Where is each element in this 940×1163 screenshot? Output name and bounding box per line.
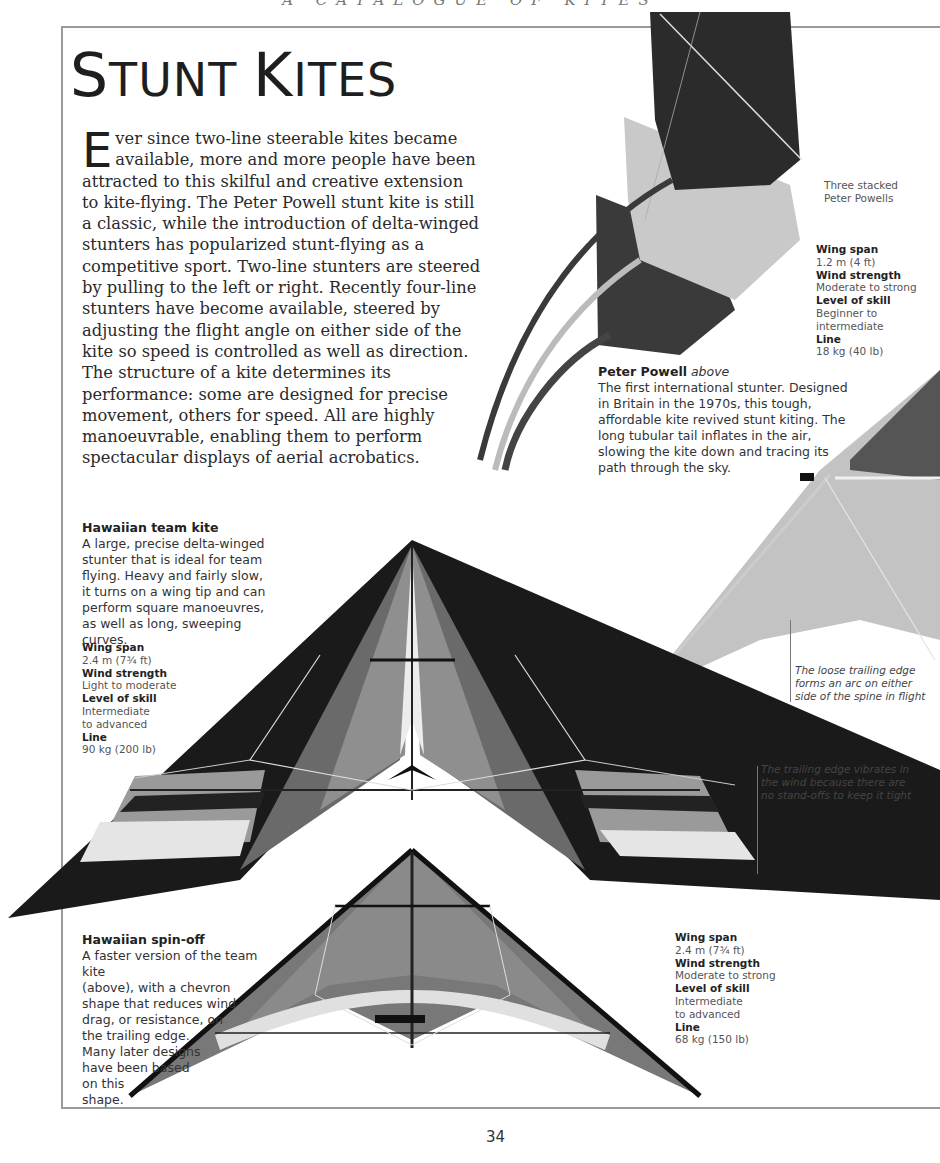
kite-description: A large, precise delta-winged stunter th… [82,536,272,648]
spec-value: to advanced [82,718,177,731]
kite-description-line: A faster version of the team kite [82,948,282,980]
kite-description-line: the trailing edge. [82,1028,282,1044]
callout-leader-line [790,620,791,670]
kite-description-line: (above), with a chevron [82,980,282,996]
page-number: 34 [486,1128,505,1146]
spec-label: Wind strength [816,269,917,282]
kite-description-line: on this [82,1076,282,1092]
spec-value: intermediate [816,320,917,333]
spec-label: Line [675,1021,776,1034]
kite-name: Hawaiian team kite [82,520,218,535]
spec-label: Wind strength [675,957,776,970]
spec-value: 18 kg (40 lb) [816,345,917,358]
peter-powell-caption: Peter Powell above The first internation… [598,364,848,476]
kite-description-line: shape. [82,1092,282,1108]
kite-description-line: Many later designs [82,1044,282,1060]
kite-name: Peter Powell [598,364,687,379]
spec-value: Light to moderate [82,679,177,692]
kite-description-line: drag, or resistance, on [82,1012,282,1028]
drop-cap: E [82,130,112,170]
spec-value: 90 kg (200 lb) [82,743,177,756]
callout-line: side of the spine in flight [795,690,925,703]
spec-value: Moderate to strong [675,969,776,982]
callout-line: forms an arc on either [795,677,925,690]
spec-label: Wind strength [82,667,177,680]
intro-paragraph: Ever since two-line steerable kites beca… [82,128,482,469]
spec-label: Wing span [816,243,917,256]
hawaiian-spinoff-specs: Wing span 2.4 m (7¾ ft) Wind strength Mo… [675,931,776,1046]
spec-value: 2.4 m (7¾ ft) [675,944,776,957]
callout-line: The trailing edge vibrates in [761,763,911,776]
spec-label: Line [82,731,177,744]
spec-label: Level of skill [816,294,917,307]
image-label-line: Peter Powells [824,192,898,205]
callout-loose-trailing-edge: The loose trailing edge forms an arc on … [790,664,925,702]
spec-label: Wing span [675,931,776,944]
hawaiian-team-specs: Wing span 2.4 m (7¾ ft) Wind strength Li… [82,641,177,756]
peter-powell-specs: Wing span 1.2 m (4 ft) Wind strength Mod… [816,243,917,358]
spec-value: 2.4 m (7¾ ft) [82,654,177,667]
spec-label: Level of skill [82,692,177,705]
spec-value: Beginner to [816,307,917,320]
hawaiian-team-caption: Hawaiian team kite A large, precise delt… [82,520,272,648]
spec-value: Moderate to strong [816,281,917,294]
three-stacked-label: Three stacked Peter Powells [824,179,898,205]
intro-text: ver since two-line steerable kites becam… [82,129,480,467]
callout-line: no stand-offs to keep it tight [761,789,911,802]
callout-line: the wind because there are [761,776,911,789]
kite-name-suffix: above [691,364,729,379]
spec-value: to advanced [675,1008,776,1021]
spec-value: 1.2 m (4 ft) [816,256,917,269]
spec-label: Wing span [82,641,177,654]
kite-description-line: shape that reduces wind [82,996,282,1012]
image-label-line: Three stacked [824,179,898,192]
spec-label: Line [816,333,917,346]
kite-description: The first international stunter. Designe… [598,380,848,476]
spec-value: Intermediate [675,995,776,1008]
spec-label: Level of skill [675,982,776,995]
kite-description-line: have been based [82,1060,282,1076]
kite-name: Hawaiian spin-off [82,932,205,947]
hawaiian-spinoff-caption: Hawaiian spin-off A faster version of th… [82,932,282,1108]
callout-line: The loose trailing edge [795,664,925,677]
callout-trailing-edge-vibrates: The trailing edge vibrates in the wind b… [757,763,911,801]
spec-value: Intermediate [82,705,177,718]
page-title: STUNT KITES [70,40,397,115]
spec-value: 68 kg (150 lb) [675,1033,776,1046]
